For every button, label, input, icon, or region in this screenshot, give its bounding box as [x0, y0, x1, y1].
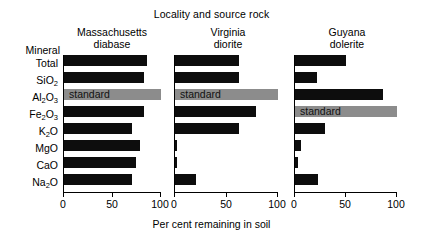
panel-title-line2: diorite	[172, 39, 284, 51]
panel-title-line1: Virginia	[211, 26, 246, 38]
category-label-fe2o3: Fe2O3	[0, 108, 58, 121]
x-tick-100	[160, 193, 161, 197]
category-label-al2o3: Al2O3	[0, 91, 58, 104]
chart-figure: Locality and source rock Massachusetts d…	[0, 0, 423, 244]
category-label-na2o: Na2O	[0, 176, 58, 189]
bar-mgo	[175, 140, 177, 151]
category-label-cao: CaO	[0, 159, 58, 172]
bar-total	[64, 55, 147, 66]
category-label-mgo: MgO	[0, 142, 58, 155]
bar-fe2o3	[175, 106, 256, 117]
panel-title-guyana: Guyana dolerite	[292, 27, 402, 50]
panel-title-line1: Massachusetts	[77, 26, 147, 38]
x-tick-50	[226, 193, 227, 197]
chart-title: Locality and source rock	[0, 8, 423, 20]
bar-total	[295, 55, 346, 66]
bar-sio2	[175, 72, 239, 83]
category-label-total: Total	[0, 57, 58, 70]
bar-cao	[175, 157, 177, 168]
bar-al2o3	[295, 89, 383, 100]
bar-fe2o3	[64, 106, 144, 117]
x-tick-label-0: 0	[50, 198, 76, 210]
standard-bar-label: standard	[300, 106, 341, 117]
standard-bar-label: standard	[69, 89, 110, 100]
x-tick-0	[174, 193, 175, 197]
bar-sio2	[64, 72, 144, 83]
bar-na2o	[295, 174, 318, 185]
x-tick-label-0: 0	[281, 198, 307, 210]
x-tick-label-0: 0	[161, 198, 187, 210]
bar-sio2	[295, 72, 317, 83]
bar-total	[175, 55, 239, 66]
panel-title-massachusetts: Massachusetts diabase	[48, 27, 176, 50]
bar-mgo	[64, 140, 140, 151]
category-label-sio2: SiO2	[0, 74, 58, 87]
bar-na2o	[175, 174, 196, 185]
bar-mgo	[295, 140, 301, 151]
category-label-k2o: K2O	[0, 125, 58, 138]
bar-na2o	[64, 174, 132, 185]
mineral-column-header: Mineral	[4, 44, 60, 56]
x-axis-label: Per cent remaining in soil	[0, 218, 423, 230]
x-tick-0	[294, 193, 295, 197]
bar-k2o	[295, 123, 325, 134]
x-tick-100	[277, 193, 278, 197]
bar-cao	[295, 157, 298, 168]
x-tick-100	[396, 193, 397, 197]
x-tick-label-50: 50	[213, 198, 239, 210]
panel-title-line2: diabase	[48, 39, 176, 51]
x-tick-50	[112, 193, 113, 197]
standard-bar-label: standard	[180, 89, 221, 100]
bar-cao	[64, 157, 136, 168]
bar-k2o	[175, 123, 239, 134]
x-tick-0	[63, 193, 64, 197]
panel-title-line1: Guyana	[329, 26, 366, 38]
bar-k2o	[64, 123, 132, 134]
x-tick-label-50: 50	[332, 198, 358, 210]
x-tick-50	[345, 193, 346, 197]
x-tick-label-50: 50	[99, 198, 125, 210]
panel-title-virginia: Virginia diorite	[172, 27, 284, 50]
panel-title-line2: dolerite	[292, 39, 402, 51]
x-tick-label-100: 100	[383, 198, 409, 210]
